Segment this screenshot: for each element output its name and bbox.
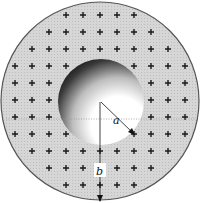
label-a: a: [113, 114, 120, 127]
diagram-canvas: a b: [0, 0, 200, 203]
charged-sphere-diagram: a b: [0, 0, 200, 203]
label-b: b: [96, 165, 103, 178]
